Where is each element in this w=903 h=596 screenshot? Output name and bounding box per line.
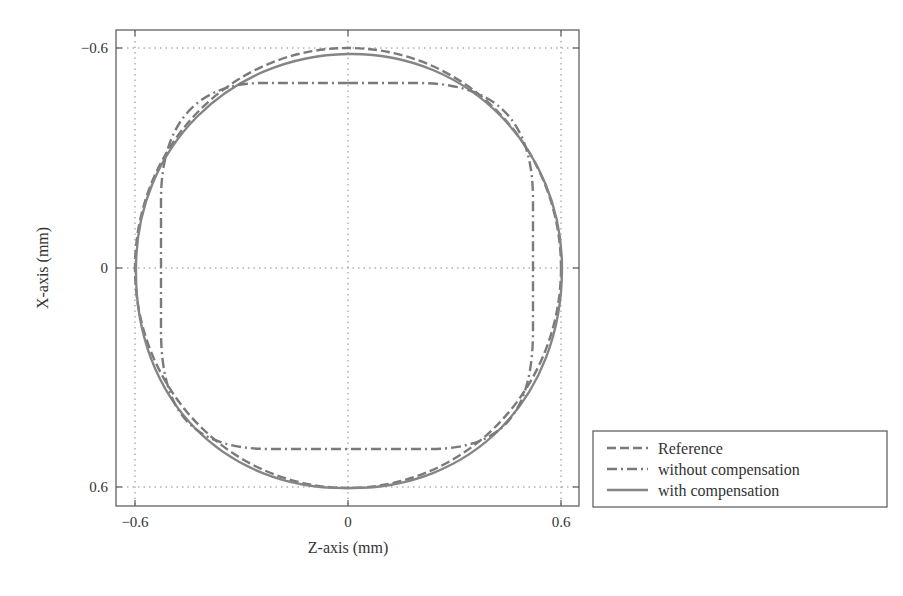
ytick-label: 0: [101, 260, 109, 276]
legend-label: with compensation: [658, 482, 779, 500]
chart-canvas: −0.6 0 0.6 −0.6 0 0.6 Z-axis (mm) X-axis…: [0, 0, 903, 596]
grid: [116, 30, 579, 506]
series-without-compensation: [161, 83, 533, 449]
ytick-label: −0.6: [81, 40, 109, 56]
legend-label: Reference: [658, 440, 723, 457]
ytick-label: 0.6: [89, 479, 108, 495]
xtick-label: 0: [344, 514, 352, 530]
legend: Reference without compensation with comp…: [593, 431, 887, 507]
legend-label: without compensation: [658, 461, 800, 479]
xtick-label: −0.6: [121, 514, 149, 530]
x-axis-label: Z-axis (mm): [308, 539, 388, 557]
y-axis-label: X-axis (mm): [34, 227, 52, 309]
xtick-label: 0.6: [552, 514, 571, 530]
